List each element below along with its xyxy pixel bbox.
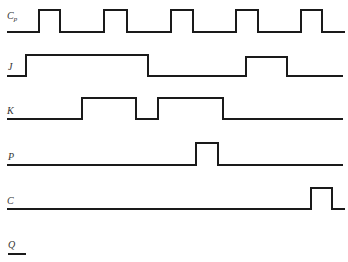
signal-label-q: Q	[8, 239, 16, 250]
timing-diagram: Cp J K P C Q	[0, 0, 348, 262]
signal-label-cp: Cp	[7, 10, 18, 23]
waveform-j	[7, 55, 343, 76]
signal-label-k: K	[6, 105, 15, 116]
signal-label-j: J	[8, 61, 13, 72]
signal-q: Q	[8, 239, 26, 254]
signal-c: C	[7, 188, 345, 209]
signal-label-p: P	[7, 151, 14, 162]
waveform-cp	[7, 10, 345, 32]
waveform-c	[7, 188, 345, 209]
signal-p: P	[7, 143, 343, 165]
waveform-k	[7, 98, 343, 119]
waveform-p	[7, 143, 343, 165]
signal-k: K	[6, 98, 343, 119]
signal-j: J	[7, 55, 343, 76]
signal-cp: Cp	[7, 10, 345, 32]
signal-label-c: C	[7, 195, 14, 206]
